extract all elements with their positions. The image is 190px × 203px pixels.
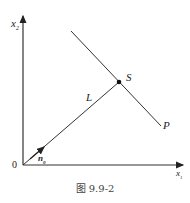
- label-p: P: [163, 120, 170, 131]
- diagram-canvas: [0, 0, 190, 203]
- label-s: S: [126, 72, 132, 83]
- figure-caption: 图 9.9-2: [0, 180, 190, 195]
- x-axis-label: x1: [176, 169, 183, 180]
- label-n0: n0: [38, 154, 46, 165]
- point-s: [117, 80, 122, 85]
- origin-label: 0: [12, 160, 17, 170]
- label-l: L: [86, 92, 92, 103]
- y-axis-label: x2: [11, 18, 19, 31]
